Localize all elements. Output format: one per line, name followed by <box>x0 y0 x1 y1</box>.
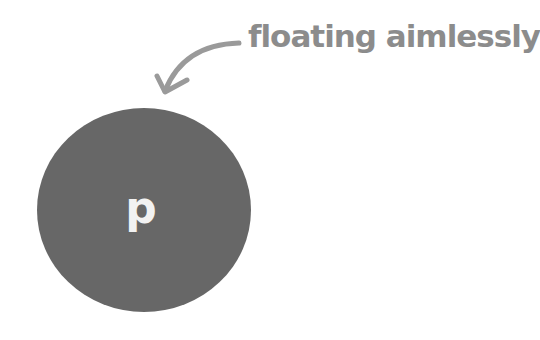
node-letter: p <box>125 182 157 233</box>
annotation-label: floating aimlessly <box>248 18 540 54</box>
node-circle: p <box>37 108 251 312</box>
